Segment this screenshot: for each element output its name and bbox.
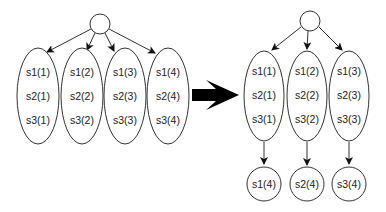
node-label: s3(1)	[26, 114, 50, 126]
left-node-3: s1(3) s2(3) s3(3)	[104, 48, 146, 144]
node-label: s1(4)	[156, 66, 180, 78]
right-edge-1	[272, 27, 301, 50]
node-label: s1(1)	[252, 65, 276, 77]
node-label: s3(3)	[113, 114, 137, 126]
left-node-2: s1(2) s2(2) s3(2)	[61, 48, 103, 144]
node-label: s1(4)	[252, 178, 276, 190]
node-label: s2(3)	[337, 89, 361, 101]
node-label: s2(2)	[295, 89, 319, 101]
node-label: s1(3)	[337, 65, 361, 77]
node-label: s3(4)	[337, 178, 361, 190]
node-label: s2(1)	[26, 90, 50, 102]
node-label: s1(2)	[70, 66, 94, 78]
node-label: s1(1)	[26, 66, 50, 78]
diagram-svg: s1(1) s2(1) s3(1) s1(2) s2(2) s3(2) s1(3…	[0, 0, 386, 212]
right-node-3: s1(3) s2(3) s3(3)	[329, 51, 369, 141]
node-label: s3(3)	[337, 113, 361, 125]
right-root-node	[300, 11, 320, 31]
node-label: s3(4)	[156, 114, 180, 126]
left-root-node	[90, 14, 110, 34]
right-diagram: s1(1) s2(1) s3(1) s1(2) s2(2) s3(2) s1(3…	[244, 11, 369, 201]
node-label: s3(1)	[252, 113, 276, 125]
node-label: s2(3)	[113, 90, 137, 102]
node-label: s2(1)	[252, 89, 276, 101]
node-label: s3(2)	[295, 113, 319, 125]
left-edge-4	[109, 29, 155, 53]
left-diagram: s1(1) s2(1) s3(1) s1(2) s2(2) s3(2) s1(3…	[17, 14, 189, 144]
left-edge-2	[87, 33, 95, 50]
node-label: s1(2)	[295, 65, 319, 77]
right-edge-2	[307, 31, 308, 49]
left-node-4: s1(4) s2(4) s3(4)	[147, 48, 189, 144]
right-child-1: s1(4)	[247, 167, 281, 201]
left-node-1: s1(1) s2(1) s3(1)	[17, 48, 59, 144]
right-node-1: s1(1) s2(1) s3(1)	[244, 51, 284, 141]
left-edge-3	[105, 33, 114, 51]
node-label: s2(4)	[295, 178, 319, 190]
node-label: s2(4)	[156, 90, 180, 102]
right-edge-3	[319, 27, 342, 50]
node-label: s3(2)	[70, 114, 94, 126]
right-node-2: s1(2) s2(2) s3(2)	[287, 51, 327, 141]
right-child-2: s2(4)	[290, 167, 324, 201]
node-label: s2(2)	[70, 90, 94, 102]
node-label: s1(3)	[113, 66, 137, 78]
right-child-3: s3(4)	[332, 167, 366, 201]
transform-arrow-icon	[192, 80, 239, 110]
diagram-canvas: s1(1) s2(1) s3(1) s1(2) s2(2) s3(2) s1(3…	[0, 0, 386, 212]
